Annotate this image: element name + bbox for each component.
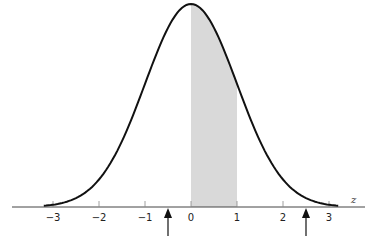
- arrow-up-icon: [164, 208, 172, 218]
- shaded-area: [191, 4, 237, 207]
- x-axis-ticks: −3−2−10123: [46, 201, 333, 223]
- arrow-up-icon: [302, 208, 310, 218]
- x-tick-label: 1: [234, 212, 240, 223]
- x-tick-label: −2: [92, 212, 107, 223]
- normal-curve-chart: −3−2−10123 z: [0, 0, 369, 240]
- x-tick-label: 2: [280, 212, 286, 223]
- x-tick-label: 0: [188, 212, 194, 223]
- x-tick-label: −3: [46, 212, 61, 223]
- x-axis-label: z: [350, 194, 357, 205]
- x-tick-label: −1: [138, 212, 153, 223]
- x-tick-label: 3: [326, 212, 332, 223]
